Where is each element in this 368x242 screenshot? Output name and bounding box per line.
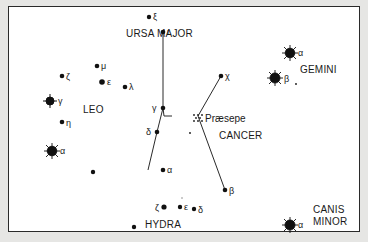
star-leo-epsilon xyxy=(99,79,105,85)
cancer-lines xyxy=(148,32,225,190)
label-leo-lambda: λ xyxy=(129,82,134,92)
label-cnc-iota: ι xyxy=(167,27,169,37)
label-cnc-chi: χ xyxy=(225,71,230,81)
star-cnc-alpha xyxy=(161,168,166,173)
star-hya-zeta xyxy=(161,204,166,209)
label-cnc-beta: β xyxy=(229,186,234,196)
label-cancer: CANCER xyxy=(219,130,262,141)
praesepe-cluster-icon xyxy=(193,114,203,122)
label-hya-epsilon: ε xyxy=(184,202,188,212)
label-hya-delta: δ xyxy=(198,205,203,215)
label-leo-epsilon: ε xyxy=(107,77,111,87)
star-hya-epsilon xyxy=(178,205,182,209)
star-cnc-chi xyxy=(219,74,224,79)
star-uma-xi xyxy=(147,15,151,19)
label-praesepe: Præsepe xyxy=(205,113,246,124)
label-leo-mu: μ xyxy=(101,61,106,71)
label-gem-beta: β xyxy=(284,74,289,84)
label-uma-xi: ξ xyxy=(153,12,157,22)
star-cnc-delta xyxy=(155,130,160,135)
star-cnc-beta xyxy=(223,188,228,193)
label-minor: MINOR xyxy=(313,216,347,227)
star-cnc-iota xyxy=(161,30,166,35)
bright-star-leo-gamma-icon xyxy=(43,94,57,108)
label-hya-zeta: ζ xyxy=(155,203,159,213)
label-cnc-delta: δ xyxy=(146,127,151,137)
star-gem-faint xyxy=(295,83,297,85)
label-leo-zeta: ζ xyxy=(66,72,70,82)
star-leo-mu xyxy=(95,64,100,69)
star-chart: URSA MAJOR LEO GEMINI CANCER HYDRA CANIS… xyxy=(0,0,368,242)
label-leo: LEO xyxy=(83,104,104,115)
label-gemini: GEMINI xyxy=(300,64,337,75)
star-leo-lambda xyxy=(123,85,128,90)
bright-star-gem-alpha-icon xyxy=(282,45,298,61)
label-cnc-alpha: α xyxy=(167,165,172,175)
star-cnc-gamma xyxy=(161,106,166,111)
label-cnc-gamma: γ xyxy=(152,103,157,113)
label-gem-alpha: α xyxy=(298,48,303,58)
star-hya-delta xyxy=(192,207,196,211)
label-leo-alpha: α xyxy=(60,146,65,156)
label-leo-eta: η xyxy=(66,118,71,128)
label-cmi-alpha: α xyxy=(298,220,303,230)
star-leo-unnamed xyxy=(91,170,95,174)
bright-star-gem-beta-icon xyxy=(267,70,283,86)
star-hya-unnamed xyxy=(132,225,136,229)
bright-star-cmi-alpha-icon xyxy=(282,217,298,233)
star-hya-faint xyxy=(181,197,183,199)
label-hydra: HYDRA xyxy=(145,219,181,230)
bright-star-leo-alpha-icon xyxy=(44,143,60,159)
star-cnc-faint xyxy=(189,132,191,134)
star-leo-zeta xyxy=(60,74,65,79)
label-ursa-major: URSA MAJOR xyxy=(126,28,193,39)
star-leo-eta xyxy=(60,120,65,125)
label-leo-gamma: γ xyxy=(58,96,63,106)
label-canis: CANIS xyxy=(313,204,345,215)
